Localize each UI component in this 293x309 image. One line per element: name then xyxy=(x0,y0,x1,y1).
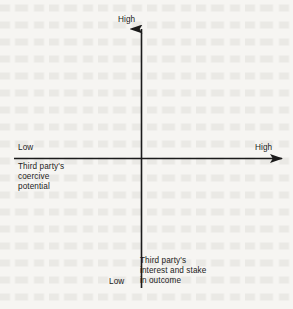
horizontal-axis-high-label: High xyxy=(255,143,272,153)
quadrant-diagram: High Low Low High Third party's coercive… xyxy=(0,0,293,309)
vertical-axis-high-label: High xyxy=(118,15,135,25)
vertical-axis-caption: Third party's interest and stake in outc… xyxy=(140,256,206,287)
horizontal-axis-caption: Third party's coercive potential xyxy=(18,162,64,193)
vertical-axis-low-label: Low xyxy=(109,277,124,287)
horizontal-axis-low-label: Low xyxy=(18,143,33,153)
